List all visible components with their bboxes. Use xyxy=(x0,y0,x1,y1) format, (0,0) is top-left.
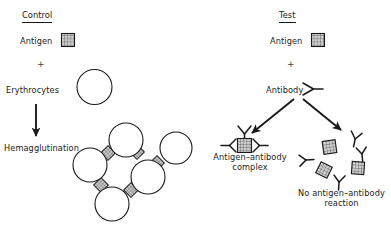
antibody-icon xyxy=(303,83,323,95)
test-antigen-icon xyxy=(312,34,325,47)
hemagglutination-lattice xyxy=(63,123,192,221)
lattice-cell xyxy=(63,123,192,221)
figure-canvas: Control Antigen + Erythrocytes Hemagglut… xyxy=(0,0,391,229)
diagram-artwork xyxy=(0,0,391,229)
control-antigen-icon xyxy=(62,34,75,47)
no-reaction-icons xyxy=(299,131,368,190)
antigen-antibody-complex-icon xyxy=(221,126,268,153)
erythrocyte-icon xyxy=(77,70,112,105)
test-branch-arrows xyxy=(252,99,341,133)
free-antigen-icon xyxy=(316,140,365,179)
